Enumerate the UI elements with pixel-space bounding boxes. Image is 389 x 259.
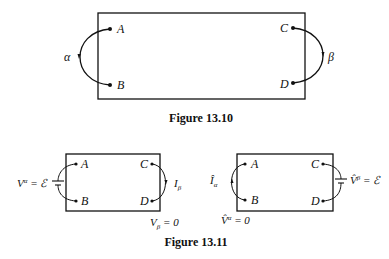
terminal-b-label: B — [117, 78, 125, 92]
terminal-c-label: C — [280, 21, 289, 35]
battery-wire-top — [58, 164, 76, 181]
port-beta-arc — [293, 28, 323, 83]
battery-wire-bottom — [323, 183, 341, 201]
current-label: Iβ — [173, 177, 182, 192]
figure-13-10: A B C D α β Figure 13.10 — [64, 13, 334, 125]
terminal-a-label: A — [250, 157, 259, 171]
terminal-b-label: B — [251, 193, 259, 207]
figure-13-11-left-panel: A B C D Vα = ℰ Iβ Vβ = 0 — [17, 154, 182, 231]
terminal-d-label: D — [139, 194, 149, 208]
arrow-down-icon — [322, 52, 325, 57]
terminal-b-label: B — [81, 194, 89, 208]
port-alpha-arc — [80, 29, 110, 85]
terminal-c-label: C — [311, 157, 320, 171]
arrow-down-icon — [165, 180, 168, 185]
terminal-a-label: A — [116, 22, 125, 36]
figure-caption: Figure 13.11 — [164, 235, 227, 249]
port-beta-label: β — [327, 50, 334, 64]
port-alpha-label: α — [64, 50, 71, 64]
terminal-d-label: D — [310, 194, 320, 208]
current-label: Îα — [209, 174, 218, 189]
arrow-up-icon — [231, 179, 234, 184]
current-arc — [152, 164, 166, 201]
source-voltage-label: V̂β = ℰ — [350, 174, 381, 186]
condition-label: Vβ = 0 — [150, 216, 179, 231]
terminal-c-label: C — [140, 157, 149, 171]
battery-wire-bottom — [58, 185, 76, 201]
terminal-a-label: A — [80, 157, 89, 171]
network-box — [98, 13, 305, 99]
figure-13-11-right-panel: A B C D Îα V̂β = ℰ V̂α = 0 — [209, 154, 381, 226]
terminal-d-label: D — [279, 77, 289, 91]
battery-wire-top — [323, 164, 341, 179]
diagram-canvas: A B C D α β Figure 13.10 A B C D Vα = ℰ — [0, 0, 389, 259]
source-voltage-label: Vα = ℰ — [17, 177, 48, 189]
figure-caption: Figure 13.10 — [169, 111, 233, 125]
condition-label: V̂α = 0 — [221, 214, 250, 226]
current-arc — [232, 164, 246, 200]
